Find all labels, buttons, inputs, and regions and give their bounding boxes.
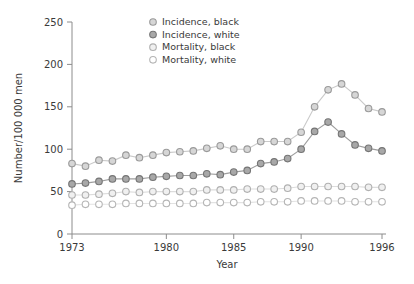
data-point — [136, 200, 143, 207]
data-point — [244, 167, 251, 174]
data-point — [352, 142, 359, 149]
data-point — [109, 190, 116, 197]
data-point — [69, 181, 76, 188]
legend-marker-2 — [150, 44, 157, 51]
data-point — [284, 138, 291, 145]
y-tick-label-100: 100 — [44, 144, 63, 155]
data-point — [96, 157, 103, 164]
data-point — [217, 199, 224, 206]
data-point — [271, 159, 278, 166]
series-incidence-black — [69, 81, 386, 170]
y-tick-label-50: 50 — [50, 186, 63, 197]
data-point — [365, 184, 372, 191]
data-point — [230, 199, 237, 206]
data-point — [257, 198, 264, 205]
data-point — [271, 138, 278, 145]
data-point — [109, 201, 116, 208]
legend-label-0: Incidence, black — [162, 16, 239, 27]
data-point — [82, 192, 89, 199]
data-point — [163, 200, 170, 207]
legend-label-1: Incidence, white — [162, 29, 240, 40]
data-point — [311, 104, 318, 111]
series-mortality-white — [69, 198, 386, 209]
data-point — [69, 202, 76, 209]
data-point — [109, 176, 116, 183]
data-point — [123, 152, 130, 159]
data-point — [217, 187, 224, 194]
data-point — [244, 186, 251, 193]
data-point — [190, 172, 197, 179]
data-point — [298, 146, 305, 153]
data-point — [69, 160, 76, 167]
data-point — [163, 173, 170, 180]
x-tick-label-1996: 1996 — [369, 242, 394, 253]
data-point — [136, 176, 143, 183]
series-line — [72, 187, 382, 195]
data-point — [82, 180, 89, 187]
data-point — [177, 200, 184, 207]
data-point — [365, 198, 372, 205]
data-point — [230, 187, 237, 194]
data-point — [150, 188, 157, 195]
data-point — [82, 163, 89, 170]
data-point — [109, 158, 116, 165]
data-point — [284, 198, 291, 205]
data-point — [96, 191, 103, 198]
data-point — [325, 183, 332, 190]
data-point — [177, 172, 184, 179]
data-point — [136, 189, 143, 196]
data-point — [352, 198, 359, 205]
data-point — [257, 138, 264, 145]
data-point — [244, 146, 251, 153]
data-point — [298, 129, 305, 136]
y-tick-label-250: 250 — [44, 17, 63, 28]
data-point — [203, 199, 210, 206]
data-point — [177, 188, 184, 195]
data-point — [338, 131, 345, 138]
data-point — [177, 148, 184, 155]
data-point — [150, 174, 157, 181]
x-tick-label-1990: 1990 — [288, 242, 313, 253]
series-line — [72, 122, 382, 184]
data-point — [298, 183, 305, 190]
x-axis-title: Year — [215, 259, 238, 270]
x-tick-label-1980: 1980 — [154, 242, 179, 253]
y-axis-title: Number/100 000 men — [13, 73, 24, 183]
data-point — [150, 200, 157, 207]
data-point — [311, 198, 318, 205]
data-point — [284, 185, 291, 192]
data-point — [230, 169, 237, 176]
x-tick-label-1985: 1985 — [221, 242, 246, 253]
legend-marker-3 — [150, 57, 157, 64]
data-point — [298, 198, 305, 205]
data-point — [325, 119, 332, 126]
data-point — [352, 92, 359, 99]
series-incidence-white — [69, 119, 386, 188]
data-point — [123, 176, 130, 183]
legend-marker-1 — [150, 31, 157, 38]
data-point — [325, 198, 332, 205]
data-point — [203, 145, 210, 152]
x-tick-label-1973: 1973 — [59, 242, 84, 253]
series-mortality-black — [69, 183, 386, 198]
data-point — [123, 200, 130, 207]
data-point — [325, 87, 332, 94]
data-point — [96, 178, 103, 185]
data-point — [163, 188, 170, 195]
data-point — [190, 188, 197, 195]
y-tick-label-0: 0 — [57, 229, 63, 240]
y-tick-label-150: 150 — [44, 101, 63, 112]
data-point — [123, 188, 130, 195]
data-point — [271, 186, 278, 193]
y-tick-label-200: 200 — [44, 59, 63, 70]
data-point — [244, 199, 251, 206]
legend-marker-0 — [150, 19, 157, 26]
data-point — [257, 186, 264, 193]
legend-label-3: Mortality, white — [162, 54, 236, 65]
data-point — [379, 184, 386, 191]
legend: Incidence, blackIncidence, whiteMortalit… — [150, 16, 240, 65]
data-point — [271, 198, 278, 205]
data-point — [190, 200, 197, 207]
data-point — [190, 148, 197, 155]
data-point — [338, 198, 345, 205]
